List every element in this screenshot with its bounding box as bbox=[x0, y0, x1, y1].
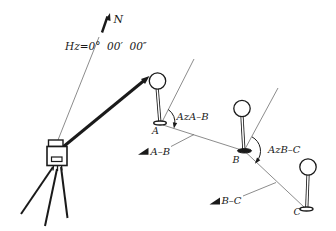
prism-c-icon bbox=[300, 159, 316, 175]
prism-a-icon bbox=[149, 73, 165, 89]
direction-tag-ab-icon bbox=[138, 148, 149, 155]
azimuth-bc-label: AzB–C bbox=[267, 144, 301, 155]
azimuth-ab-label: AzA–B bbox=[176, 111, 209, 122]
total-station-telescope bbox=[49, 140, 64, 147]
leader-line-tag-ab bbox=[171, 135, 194, 147]
prism-pole-b bbox=[234, 100, 252, 153]
total-station-body bbox=[47, 147, 67, 166]
station-a-label: A bbox=[151, 125, 159, 136]
station-c-label: C bbox=[294, 206, 302, 217]
direction-ab-label: A–B bbox=[150, 146, 171, 157]
direction-bc-label: B–C bbox=[221, 195, 242, 206]
north-label: N bbox=[113, 13, 124, 26]
leader-line-tag-bc bbox=[243, 183, 276, 197]
total-station bbox=[21, 140, 68, 226]
pole-base-b bbox=[238, 149, 252, 153]
sight-arrow-icon bbox=[63, 76, 150, 147]
prism-pole-a bbox=[149, 73, 166, 125]
pole-base-c bbox=[300, 207, 313, 211]
north-line-station-b bbox=[245, 88, 278, 149]
traverse-line-b-c bbox=[246, 153, 304, 208]
north-arrow-icon bbox=[102, 13, 111, 33]
north-line-instrument bbox=[56, 37, 99, 145]
survey-diagram-canvas: N Hz=0° 00′ 00″ A B C AzA–B AzB–C A–B B–… bbox=[0, 0, 336, 231]
station-b-label: B bbox=[232, 154, 240, 165]
total-station-display bbox=[52, 157, 63, 162]
tripod-leg-right bbox=[61, 167, 68, 218]
survey-diagram: N Hz=0° 00′ 00″ A B C AzA–B AzB–C A–B B–… bbox=[0, 0, 336, 231]
prism-pole-c bbox=[300, 159, 316, 211]
prism-b-icon bbox=[234, 100, 250, 116]
direction-tag-bc-icon bbox=[210, 198, 221, 205]
hz-reading: Hz=0° 00′ 00″ bbox=[64, 40, 147, 52]
traverse-line-a-b bbox=[163, 125, 243, 151]
